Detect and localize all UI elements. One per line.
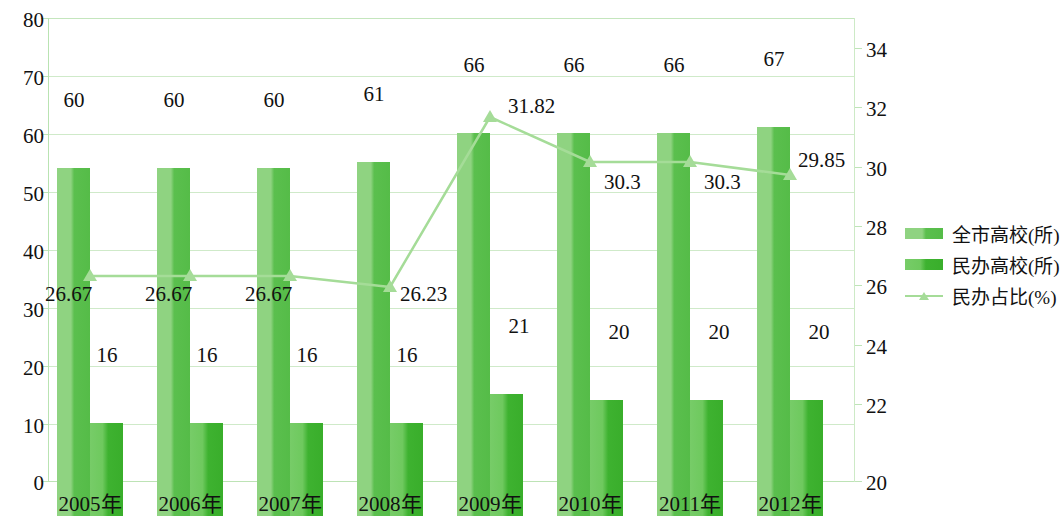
legend-swatch-icon-private (905, 259, 943, 270)
y-right-tick-32: 32 (866, 97, 906, 122)
gridline-60 (49, 134, 854, 135)
line-label-2009: 31.82 (508, 94, 555, 119)
y-left-tick-60: 60 (0, 124, 44, 149)
bar-label-total-2007: 60 (248, 88, 300, 113)
legend-label-total: 全市高校(所) (952, 220, 1060, 247)
bar-total-2010[interactable] (557, 133, 590, 516)
bar-label-total-2008: 61 (348, 82, 400, 107)
x-label-2007: 2007年 (240, 487, 340, 516)
y-left-tick-50: 50 (0, 182, 44, 207)
legend-item-percentage[interactable]: 民办占比(%) (905, 280, 1055, 311)
x-label-2011: 2011年 (640, 487, 740, 516)
right-tick-mark (855, 167, 862, 168)
y-left-tick-10: 10 (0, 414, 44, 439)
bar-label-private-2009: 21 (493, 314, 545, 339)
line-label-2005: 26.67 (45, 282, 92, 307)
legend-item-private[interactable]: 民办高校(所) (905, 249, 1055, 280)
bar-label-total-2005: 60 (48, 88, 100, 113)
chart-legend: 全市高校(所) 民办高校(所) 民办占比(%) (905, 218, 1055, 311)
y-right-tick-30: 30 (866, 157, 906, 182)
y-left-tick-40: 40 (0, 240, 44, 265)
right-tick-mark (855, 48, 862, 49)
line-label-2008: 26.23 (400, 282, 447, 307)
legend-swatch-icon-total (905, 228, 943, 239)
y-right-tick-26: 26 (866, 275, 906, 300)
line-label-2006: 26.67 (145, 282, 192, 307)
y-right-tick-28: 28 (866, 216, 906, 241)
y-right-tick-20: 20 (866, 471, 906, 496)
legend-item-total[interactable]: 全市高校(所) (905, 218, 1055, 249)
legend-label-percentage: 民办占比(%) (952, 282, 1056, 309)
bar-label-total-2006: 60 (148, 88, 200, 113)
bar-label-total-2011: 66 (648, 53, 700, 78)
x-label-2010: 2010年 (540, 487, 640, 516)
gridline-80 (49, 18, 854, 19)
y-left-tick-70: 70 (0, 66, 44, 91)
right-tick-mark (855, 285, 862, 286)
line-label-2010: 30.3 (604, 170, 641, 195)
bar-label-total-2009: 66 (448, 53, 500, 78)
right-tick-mark (855, 226, 862, 227)
legend-label-private: 民办高校(所) (952, 251, 1060, 278)
bar-label-total-2012: 67 (748, 47, 800, 72)
y-right-tick-34: 34 (866, 38, 906, 63)
bar-label-total-2010: 66 (548, 53, 600, 78)
bar-label-private-2008: 16 (381, 343, 433, 368)
y-right-tick-24: 24 (866, 335, 906, 360)
bar-total-2007[interactable] (257, 168, 290, 516)
bar-label-private-2011: 20 (693, 320, 745, 345)
right-tick-mark (855, 345, 862, 346)
x-label-2005: 2005年 (40, 487, 140, 516)
x-label-2006: 2006年 (140, 487, 240, 516)
bar-total-2009[interactable] (457, 133, 490, 516)
right-tick-mark (855, 404, 862, 405)
y-right-tick-22: 22 (866, 394, 906, 419)
legend-triangle-marker-icon (919, 292, 929, 300)
bar-label-private-2012: 20 (793, 320, 845, 345)
bar-label-private-2005: 16 (81, 343, 133, 368)
y-left-tick-0: 0 (0, 471, 44, 496)
x-label-2008: 2008年 (340, 487, 440, 516)
x-label-2009: 2009年 (440, 487, 540, 516)
right-tick-mark (855, 481, 862, 482)
legend-line-marker-icon (905, 290, 943, 301)
y-left-tick-80: 80 (0, 8, 44, 33)
bar-label-private-2010: 20 (593, 320, 645, 345)
bar-total-2006[interactable] (157, 168, 190, 516)
bar-total-2008[interactable] (357, 162, 390, 516)
y-left-tick-30: 30 (0, 298, 44, 323)
line-label-2012: 29.85 (798, 148, 845, 173)
bar-label-private-2007: 16 (281, 343, 333, 368)
line-label-2011: 30.3 (704, 170, 741, 195)
bar-total-2011[interactable] (657, 133, 690, 516)
y-left-tick-20: 20 (0, 356, 44, 381)
right-tick-mark (855, 107, 862, 108)
bar-label-private-2006: 16 (181, 343, 233, 368)
line-label-2007: 26.67 (245, 282, 292, 307)
bar-total-2005[interactable] (57, 168, 90, 516)
x-label-2012: 2012年 (740, 487, 840, 516)
bar-total-2012[interactable] (757, 127, 790, 516)
